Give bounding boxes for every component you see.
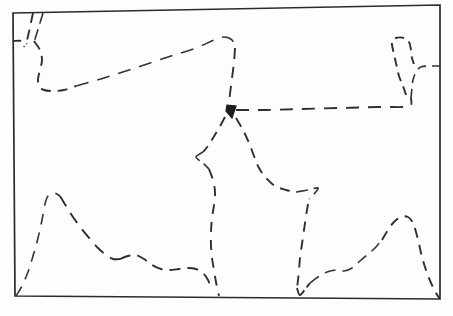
sketch-map-canvas	[0, 0, 453, 316]
triple-junction-group	[226, 105, 236, 118]
map-border	[13, 5, 440, 299]
boundary-northeast-peninsula-west-side	[392, 37, 414, 95]
boundary-central-descender	[229, 48, 235, 104]
boundary-northwest-inlet	[24, 13, 33, 47]
boundary-southeast-wavy-belt	[310, 240, 382, 283]
boundary-northwest-inlet-second	[32, 13, 43, 45]
boundary-southeast-peak	[382, 216, 440, 299]
boundary-central-east-hook	[296, 188, 318, 199]
dashed-boundary-group	[13, 13, 440, 299]
triple-junction-mark	[226, 105, 236, 118]
boundary-north-long-ridge	[76, 37, 235, 86]
boundary-south-central-descender	[297, 204, 308, 288]
boundary-central-west-descender	[209, 169, 219, 296]
map-border-group	[13, 5, 440, 299]
boundary-south-central-vee	[297, 283, 310, 295]
boundary-east-horizontal	[236, 98, 412, 110]
boundary-west-edge-stub	[13, 41, 27, 44]
boundary-southwest-descent	[60, 196, 120, 259]
boundary-southwest-rise	[16, 193, 60, 296]
boundary-south-wavy-belt	[120, 255, 211, 288]
boundary-northeast-peninsula-east-side	[411, 66, 440, 98]
boundary-central-notch	[196, 152, 209, 169]
boundary-central-peak-east-flank	[236, 118, 296, 192]
sketch-map-figure	[0, 0, 453, 316]
boundary-northwest-lobe	[34, 41, 76, 91]
boundary-central-peak-west-flank	[203, 117, 225, 152]
